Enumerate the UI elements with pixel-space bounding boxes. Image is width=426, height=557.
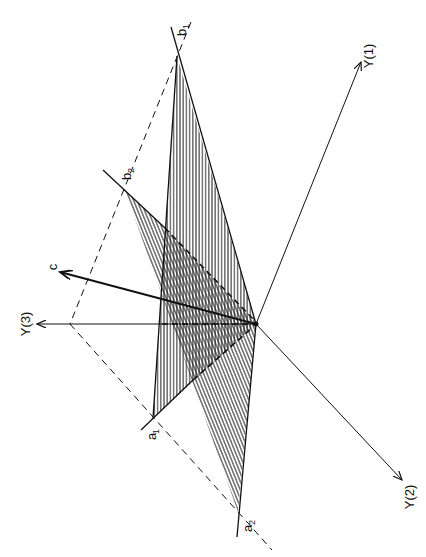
label-a2: a 2 xyxy=(240,520,257,532)
svg-text:2: 2 xyxy=(247,520,257,525)
svg-text:2: 2 xyxy=(126,168,136,173)
label-a1: a 1 xyxy=(144,429,161,440)
label-b2: b 2 xyxy=(119,168,136,180)
label-y3: Y(3) xyxy=(18,312,33,337)
label-b1: b 1 xyxy=(174,24,191,36)
label-y1: Y(1) xyxy=(361,44,376,69)
axis-y2 xyxy=(256,324,402,480)
axis-y1 xyxy=(256,62,361,324)
label-c: c xyxy=(45,263,60,270)
label-y2: Y(2) xyxy=(402,485,417,510)
origin-point xyxy=(254,322,259,327)
svg-text:1: 1 xyxy=(181,24,191,29)
feasible-region-diagram: Y(1) Y(2) Y(3) c b 1 b 2 a 1 a 2 xyxy=(0,0,426,557)
svg-text:1: 1 xyxy=(151,429,161,434)
